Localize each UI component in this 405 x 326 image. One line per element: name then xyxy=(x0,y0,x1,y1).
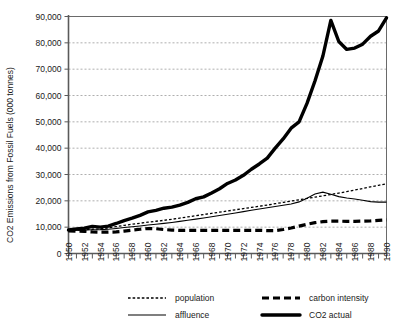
x-tick-label: 1956 xyxy=(111,242,121,261)
x-tick-label: 1972 xyxy=(239,242,249,261)
y-tick-label: 30,000 xyxy=(36,170,62,180)
x-tick-label: 1964 xyxy=(175,242,185,261)
x-tick-label: 1960 xyxy=(143,242,153,261)
legend-label-co2-actual: CO2 actual xyxy=(309,310,352,320)
x-tick-label: 1978 xyxy=(286,242,296,261)
y-tick-label: 90,000 xyxy=(36,12,62,22)
y-tick-label: 20,000 xyxy=(36,196,62,206)
x-tick-label: 1976 xyxy=(270,242,280,261)
y-tick-label: 70,000 xyxy=(36,64,62,74)
x-tick-label: 1986 xyxy=(350,242,360,261)
y-axis-title-text: CO2 Emissions from Fossil Fuels (000 ton… xyxy=(5,67,15,243)
x-tick-label: 1952 xyxy=(80,242,90,261)
legend-label-affluence: affluence xyxy=(175,310,210,320)
y-tick-label: 50,000 xyxy=(36,117,62,127)
x-tick-label: 1968 xyxy=(207,242,217,261)
x-tick-label: 1950 xyxy=(64,242,74,261)
y-tick-label: 0 xyxy=(57,249,62,259)
y-tick-label: 10,000 xyxy=(36,222,62,232)
y-tick-label: 60,000 xyxy=(36,91,62,101)
x-tick-label: 1988 xyxy=(366,242,376,261)
x-tick-label: 1970 xyxy=(223,242,233,261)
x-tick-label: 1954 xyxy=(96,242,106,261)
x-tick-label: 1974 xyxy=(255,242,265,261)
legend-label-carbon-intensity: carbon intensity xyxy=(309,293,369,303)
x-tick-label: 1966 xyxy=(191,242,201,261)
y-tick-label: 80,000 xyxy=(36,38,62,48)
x-tick-label: 1962 xyxy=(159,242,169,261)
x-tick-label: 1990 xyxy=(382,242,392,261)
y-tick-label: 40,000 xyxy=(36,143,62,153)
emissions-line-chart: CO2 Emissions from Fossil Fuels (000 ton… xyxy=(0,0,405,326)
x-tick-label: 1958 xyxy=(127,242,137,261)
y-axis-title: CO2 Emissions from Fossil Fuels (000 ton… xyxy=(5,67,15,243)
x-tick-label: 1982 xyxy=(318,242,328,261)
x-axis-tick-labels: 1950195219541956195819601962196419661968… xyxy=(64,242,392,261)
legend-label-population: population xyxy=(175,293,215,303)
x-tick-label: 1980 xyxy=(302,242,312,261)
x-tick-label: 1984 xyxy=(334,242,344,261)
chart-figure: CO2 Emissions from Fossil Fuels (000 ton… xyxy=(0,0,405,326)
